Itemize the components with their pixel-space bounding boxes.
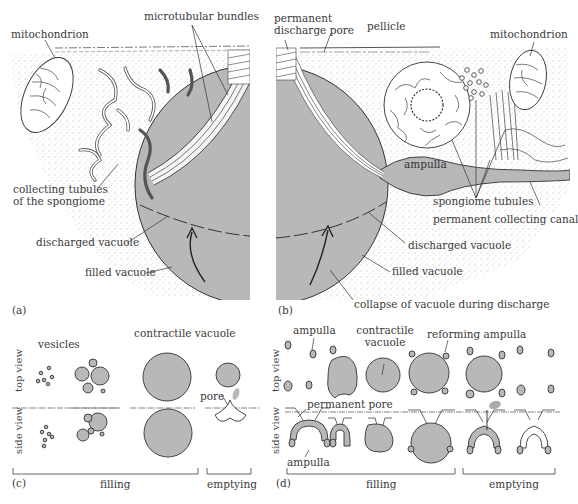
label-filled-vacuole-b: filled vacuole <box>392 265 463 277</box>
label-top-view-d: top view <box>270 349 281 392</box>
label-top-view-c: top view <box>13 349 24 392</box>
label-microtubular-bundles: microtubular bundles <box>144 10 259 22</box>
label-contractile-d-2: vacuole <box>355 336 415 348</box>
label-contractile-vacuole-c: contractile vacuole <box>134 327 236 339</box>
label-mitochondrion-b: mitochondrion <box>490 28 568 40</box>
phase-emptying-c: emptying <box>207 478 257 490</box>
spongiome-cross-section <box>384 62 470 148</box>
phase-filling-d: filling <box>366 478 397 490</box>
label-ampulla-top-d: ampulla <box>293 324 336 336</box>
phase-filling-c: filling <box>100 478 131 490</box>
contractile-vacuole-c <box>143 353 191 401</box>
label-discharged-vacuole-b: discharged vacuole <box>408 239 511 251</box>
label-mitochondrion-a: mitochondrion <box>11 28 89 40</box>
panel-tag-c: (c) <box>12 477 26 489</box>
label-pore-2: discharge pore <box>274 24 354 36</box>
panel-tag-d: (d) <box>276 477 291 489</box>
label-collecting-tubules-2: of the spongiome <box>13 195 105 207</box>
label-discharged-vacuole-a: discharged vacuole <box>36 236 139 248</box>
panel-tag-a: (a) <box>12 304 26 316</box>
label-filled-vacuole-a: filled vacuole <box>85 266 156 278</box>
label-collecting-canal: permanent collecting canal <box>433 213 578 225</box>
label-pore-1: permanent <box>274 12 332 24</box>
panel-c <box>12 353 260 474</box>
label-contractile-d-1: contractile <box>355 324 415 336</box>
label-ampulla-b: ampulla <box>404 158 447 170</box>
label-vesicles: vesicles <box>38 338 80 350</box>
panel-tag-b: (b) <box>278 304 293 316</box>
label-collapse: collapse of vacuole during discharge <box>354 298 549 310</box>
label-reforming-ampulla: reforming ampulla <box>427 328 526 340</box>
label-pore-c: pore <box>200 390 224 402</box>
contractile-vacuole-d <box>366 358 400 392</box>
label-side-view-d: side view <box>270 407 281 454</box>
label-collecting-tubules-1: collecting tubules <box>13 183 108 195</box>
label-permanent-pore: permanent pore <box>307 398 393 410</box>
label-spongiome-tubules: spongiome tubules <box>433 195 534 207</box>
ampulla-arc-d <box>290 420 328 441</box>
label-side-view-c: side view <box>13 407 24 454</box>
label-pellicle: pellicle <box>367 20 405 32</box>
label-ampulla-side-d: ampulla <box>287 456 330 468</box>
phase-emptying-d: emptying <box>489 478 539 490</box>
